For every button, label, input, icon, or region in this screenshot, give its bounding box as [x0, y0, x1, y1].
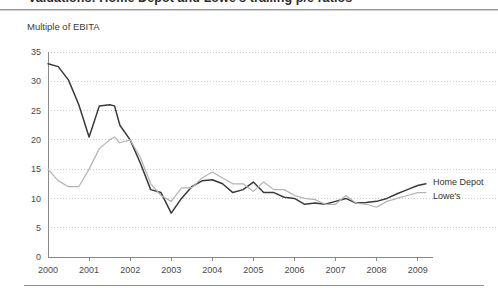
chart-page: Valuations: Home Depot and Lowe's traili…: [0, 0, 498, 294]
svg-text:2000: 2000: [38, 265, 58, 275]
svg-text:10: 10: [31, 194, 41, 204]
gridlines: [48, 52, 498, 228]
series-end-labels: Home DepotLowe's: [433, 177, 484, 201]
svg-text:20: 20: [31, 135, 41, 145]
axes: [48, 52, 433, 257]
svg-text:30: 30: [31, 76, 41, 86]
svg-text:2009: 2009: [408, 265, 428, 275]
series-label-home-depot: Home Depot: [433, 177, 484, 187]
footer-rule: [24, 285, 484, 286]
x-axis-ticks: 2000200120022003200420052006200720082009: [38, 257, 428, 275]
svg-text:2007: 2007: [326, 265, 346, 275]
plot-area: 05101520253035 2000200120022003200420052…: [0, 0, 498, 294]
svg-text:2002: 2002: [120, 265, 140, 275]
svg-text:2003: 2003: [161, 265, 181, 275]
svg-text:35: 35: [31, 47, 41, 57]
line-chart: 05101520253035 2000200120022003200420052…: [0, 0, 498, 294]
svg-text:2006: 2006: [284, 265, 304, 275]
y-axis-ticks: 05101520253035: [31, 47, 41, 262]
svg-text:25: 25: [31, 106, 41, 116]
svg-text:15: 15: [31, 164, 41, 174]
series-lines: [48, 64, 426, 213]
svg-text:2008: 2008: [367, 265, 387, 275]
series-label-lowe-s: Lowe's: [433, 191, 461, 201]
svg-text:2001: 2001: [79, 265, 99, 275]
svg-text:2005: 2005: [243, 265, 263, 275]
svg-text:2004: 2004: [202, 265, 222, 275]
svg-text:5: 5: [36, 223, 41, 233]
svg-text:0: 0: [36, 252, 41, 262]
